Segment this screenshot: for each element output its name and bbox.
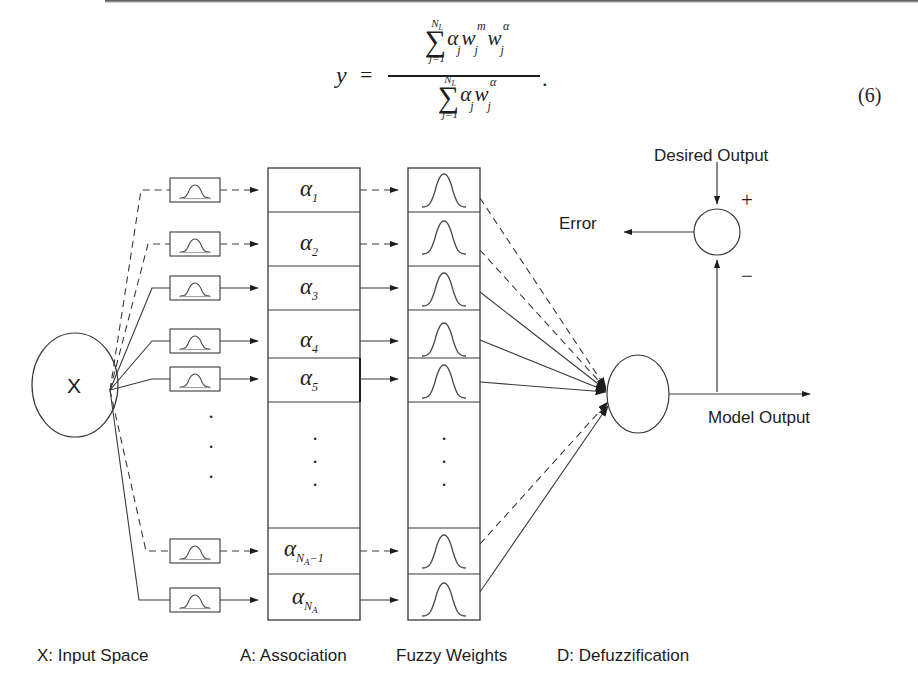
caption-defuzzification: D: Defuzzification — [557, 646, 689, 666]
model-output-label: Model Output — [708, 408, 810, 428]
fraction-bar — [388, 75, 540, 77]
input-fanout-1 — [110, 190, 170, 390]
fuzzy-weights-column — [408, 168, 480, 620]
numerator-w-j-m: wjm — [462, 26, 488, 50]
equation-number: (6) — [858, 84, 881, 107]
input-space-label: X — [67, 374, 81, 398]
input-fanout-na — [110, 390, 170, 600]
minus-sign-label: − — [741, 264, 753, 289]
fw-to-defuzz-2 — [480, 250, 606, 389]
equation-lhs: y — [336, 62, 347, 89]
association-label-na: αNA — [292, 584, 318, 615]
input-fanout-3 — [110, 288, 170, 390]
membership-function-box-na — [170, 588, 220, 612]
equation-equals: = — [360, 62, 372, 88]
equation-6: y = ∑ NL j=1 αjwjmwjα ∑ NL j=1 αjwjα . — [336, 22, 556, 122]
fw-to-defuzz-na — [480, 406, 608, 592]
membership-function-box-3 — [170, 276, 220, 300]
equation-numerator: ∑ NL j=1 αjwjmwjα — [388, 26, 548, 56]
association-label-3: α3 — [300, 274, 318, 304]
equation-block: y = ∑ NL j=1 αjwjmwjα ∑ NL j=1 αjwjα . (… — [0, 22, 918, 122]
caption-input-space: X: Input Space — [37, 646, 149, 666]
numerator-upper-limit: NL — [431, 17, 443, 32]
association-ellipsis: ··· — [311, 428, 319, 497]
defuzzification-ellipse — [607, 355, 669, 433]
summation-denominator: ∑ NL j=1 — [438, 82, 459, 112]
numerator-lower-limit: j=1 — [429, 52, 445, 64]
equation-denominator: ∑ NL j=1 αjwjα — [388, 82, 548, 112]
association-label-4: α4 — [300, 327, 318, 357]
summing-junction-circle — [694, 209, 740, 255]
fuzzy-weights-ellipsis: ··· — [440, 428, 448, 497]
association-label-1: α1 — [300, 176, 318, 206]
membership-function-ellipsis: ··· — [207, 402, 215, 492]
error-label: Error — [559, 214, 597, 234]
plus-sign-label: + — [741, 188, 753, 213]
fw-to-defuzz-3 — [480, 292, 606, 390]
membership-function-box-4 — [170, 329, 220, 353]
membership-function-box-2 — [170, 232, 220, 256]
network-architecture-diagram: α1 α2 α3 α4 α5 αNA−1 αNA ··· ··· ··· X D… — [0, 140, 918, 696]
association-label-na-minus-1: αNA−1 — [284, 536, 324, 567]
denominator-w-j-alpha: wjα — [475, 82, 499, 106]
scan-top-edge — [105, 0, 918, 3]
summation-numerator: ∑ NL j=1 — [425, 26, 446, 56]
desired-output-label: Desired Output — [654, 146, 768, 166]
membership-function-box-5 — [170, 367, 220, 391]
caption-association: A: Association — [240, 646, 347, 666]
denominator-lower-limit: j=1 — [442, 108, 458, 120]
numerator-w-j-alpha: wjα — [488, 26, 512, 50]
equation-period: . — [542, 66, 548, 92]
association-label-5: α5 — [300, 365, 318, 395]
input-fanout-5 — [110, 379, 170, 390]
numerator-alpha-j: αj — [447, 26, 461, 50]
input-fanout-na-1 — [110, 390, 170, 551]
fw-to-defuzz-na-1 — [480, 402, 608, 544]
caption-fuzzy-weights: Fuzzy Weights — [396, 646, 507, 666]
membership-function-box-1 — [170, 178, 220, 202]
denominator-alpha-j: αj — [460, 82, 474, 106]
membership-function-box-na-1 — [170, 539, 220, 563]
association-label-2: α2 — [300, 230, 318, 260]
